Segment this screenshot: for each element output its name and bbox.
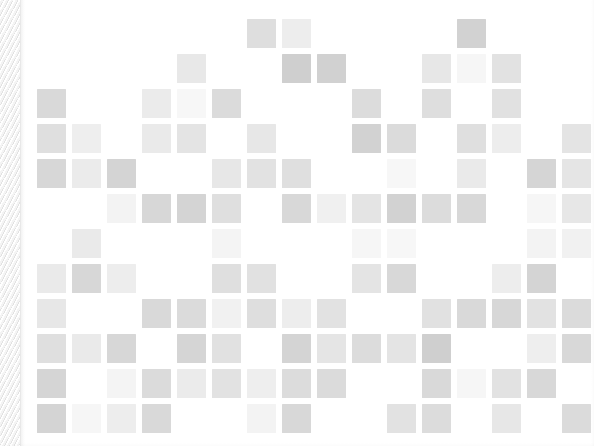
heatmap-cell	[317, 299, 346, 328]
heatmap-cell	[492, 404, 521, 433]
heatmap-cell	[387, 194, 416, 223]
heatmap-cell	[72, 124, 101, 153]
heatmap-cell	[107, 159, 136, 188]
heatmap-cell	[387, 124, 416, 153]
heatmap-cell	[457, 124, 486, 153]
heatmap-cell	[142, 404, 171, 433]
heatmap-cell	[72, 229, 101, 258]
heatmap-cell	[72, 264, 101, 293]
heatmap-cell	[107, 194, 136, 223]
heatmap-cell	[387, 404, 416, 433]
heatmap-cell	[492, 369, 521, 398]
heatmap-cell	[107, 264, 136, 293]
heatmap-cell	[562, 159, 591, 188]
heatmap-cell	[282, 334, 311, 363]
heatmap-cell	[37, 404, 66, 433]
heatmap-cell	[527, 264, 556, 293]
heatmap-cell	[212, 369, 241, 398]
heatmap-cell	[527, 299, 556, 328]
heatmap-cell	[317, 369, 346, 398]
heatmap-cell	[142, 369, 171, 398]
heatmap-cell	[457, 159, 486, 188]
heatmap-cell	[527, 159, 556, 188]
heatmap-cell	[422, 54, 451, 83]
heatmap-cell	[492, 124, 521, 153]
heatmap-cell	[177, 369, 206, 398]
heatmap-cell	[107, 404, 136, 433]
heatmap-cell	[247, 299, 276, 328]
heatmap-cell	[352, 264, 381, 293]
heatmap-cell	[37, 159, 66, 188]
heatmap-cell	[492, 54, 521, 83]
heatmap-cell	[282, 299, 311, 328]
heatmap-cell	[212, 299, 241, 328]
heatmap-cell	[177, 194, 206, 223]
heatmap-cell	[142, 194, 171, 223]
heatmap-cell	[37, 334, 66, 363]
heatmap-cell	[37, 299, 66, 328]
heatmap-cell	[212, 229, 241, 258]
heatmap-cell	[457, 299, 486, 328]
heatmap-cell	[317, 334, 346, 363]
heatmap-cell	[527, 369, 556, 398]
heatmap-cell	[282, 194, 311, 223]
heatmap-cell	[562, 124, 591, 153]
heatmap-cell	[72, 159, 101, 188]
heatmap-cell	[422, 194, 451, 223]
heatmap-cell	[37, 264, 66, 293]
heatmap-cell	[282, 19, 311, 48]
heatmap-cell	[247, 159, 276, 188]
heatmap-cell	[37, 124, 66, 153]
heatmap-cell	[247, 264, 276, 293]
heatmap-cell	[212, 264, 241, 293]
heatmap-cell	[247, 19, 276, 48]
heatmap-cell	[352, 124, 381, 153]
heatmap-cell	[72, 334, 101, 363]
heatmap-cell	[37, 369, 66, 398]
heatmap-cell	[562, 404, 591, 433]
heatmap-cell	[562, 334, 591, 363]
heatmap-cell	[177, 89, 206, 118]
heatmap-cell	[562, 194, 591, 223]
heatmap-cell	[247, 124, 276, 153]
heatmap-cell	[527, 334, 556, 363]
heatmap-cell	[282, 159, 311, 188]
heatmap-cell	[212, 159, 241, 188]
heatmap-cell	[282, 404, 311, 433]
heatmap-cell	[562, 299, 591, 328]
heatmap-cell	[177, 124, 206, 153]
heatmap-grid	[0, 0, 594, 446]
heatmap-cell	[317, 54, 346, 83]
heatmap-cell	[422, 404, 451, 433]
heatmap-cell	[177, 54, 206, 83]
heatmap-cell	[422, 334, 451, 363]
heatmap-canvas	[0, 0, 594, 446]
heatmap-cell	[247, 369, 276, 398]
heatmap-cell	[492, 89, 521, 118]
heatmap-cell	[422, 89, 451, 118]
heatmap-cell	[527, 229, 556, 258]
heatmap-cell	[492, 299, 521, 328]
heatmap-cell	[352, 89, 381, 118]
heatmap-cell	[212, 194, 241, 223]
heatmap-cell	[422, 369, 451, 398]
heatmap-cell	[282, 54, 311, 83]
heatmap-cell	[492, 264, 521, 293]
heatmap-cell	[142, 89, 171, 118]
heatmap-cell	[37, 89, 66, 118]
heatmap-cell	[387, 334, 416, 363]
heatmap-cell	[457, 54, 486, 83]
heatmap-cell	[527, 194, 556, 223]
heatmap-cell	[422, 299, 451, 328]
heatmap-cell	[142, 124, 171, 153]
heatmap-cell	[562, 229, 591, 258]
heatmap-cell	[247, 404, 276, 433]
heatmap-cell	[142, 299, 171, 328]
heatmap-cell	[457, 19, 486, 48]
heatmap-cell	[177, 299, 206, 328]
heatmap-cell	[212, 89, 241, 118]
heatmap-cell	[177, 334, 206, 363]
heatmap-cell	[107, 369, 136, 398]
heatmap-cell	[387, 159, 416, 188]
heatmap-cell	[352, 194, 381, 223]
